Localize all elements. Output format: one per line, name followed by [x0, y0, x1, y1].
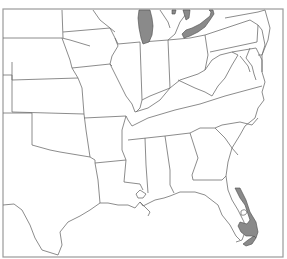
- range-map: [0, 0, 287, 259]
- range-michigan-islands: [172, 10, 176, 14]
